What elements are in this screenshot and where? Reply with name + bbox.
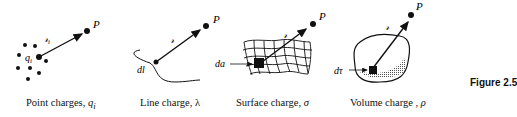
field-point-P <box>84 28 90 34</box>
caption-line-charge: Line charge, λ <box>140 97 200 108</box>
field-point-P <box>408 12 414 18</box>
field-point-P <box>310 21 316 27</box>
field-point-P <box>203 23 209 29</box>
label-qi: qi <box>25 52 32 65</box>
separation-vector-arrow <box>156 30 200 62</box>
caption-point-charges: Point charges, qi <box>26 97 96 111</box>
caption-surface-charge: Surface charge, σ <box>236 97 309 108</box>
label-P: P <box>92 18 100 30</box>
label-script-r: 𝓇 <box>170 34 175 45</box>
line-charge-panel: P 𝓇 dl <box>134 13 220 82</box>
surface-charge-panel: P 𝓇 da <box>215 10 326 75</box>
caption-volume-charge: Volume charge , ρ <box>350 97 426 108</box>
label-script-r: 𝓇 <box>283 29 288 40</box>
label-script-r: 𝓇 <box>385 21 390 32</box>
surface-grid <box>243 39 312 75</box>
volume-charge-panel: P 𝓇 dτ <box>334 0 423 82</box>
figure-label: Figure 2.5 <box>470 77 517 88</box>
label-P: P <box>212 13 220 25</box>
point-charges-panel: P 𝓇i qi <box>16 18 100 81</box>
surface-element-da <box>254 58 264 68</box>
label-P: P <box>318 10 326 22</box>
label-da: da <box>215 58 225 69</box>
label-P: P <box>415 0 423 12</box>
point-charge-dots <box>16 43 48 81</box>
label-script-r-i: 𝓇i <box>44 33 50 46</box>
label-dl: dl <box>137 64 145 75</box>
volume-shading <box>360 58 406 78</box>
label-dtau: dτ <box>334 65 343 76</box>
